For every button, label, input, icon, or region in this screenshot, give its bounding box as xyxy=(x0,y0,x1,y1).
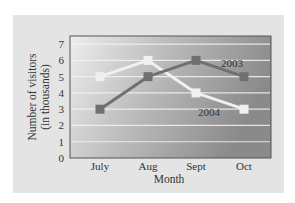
plot-area xyxy=(70,36,271,158)
data-point-2004 xyxy=(240,105,249,114)
data-point-2004 xyxy=(144,56,153,65)
y-tick-label: 4 xyxy=(59,87,65,99)
y-tick-label: 0 xyxy=(59,152,65,164)
data-point-2003 xyxy=(144,72,153,81)
y-tick-label: 1 xyxy=(59,136,65,148)
y-axis-label-line2: (in thousands) xyxy=(39,64,52,130)
x-axis-label: Month xyxy=(154,173,185,185)
data-point-2003 xyxy=(192,56,201,65)
x-tick-label: July xyxy=(91,160,110,172)
x-tick-label: Aug xyxy=(139,160,158,172)
data-point-2003 xyxy=(96,105,105,114)
y-tick-label: 5 xyxy=(59,71,65,83)
line-chart: 01234567 JulyAugSeptOct 2003 2004 Month … xyxy=(0,0,295,203)
series-label-2004: 2004 xyxy=(198,106,221,118)
data-point-2004 xyxy=(192,88,201,97)
y-tick-label: 6 xyxy=(59,54,65,66)
data-point-2003 xyxy=(240,72,249,81)
x-tick-label: Oct xyxy=(236,160,252,172)
y-axis-label-line1: Number of visitors xyxy=(26,53,38,140)
y-axis-ticks: 01234567 xyxy=(59,38,65,164)
y-tick-label: 7 xyxy=(59,38,65,50)
series-label-2003: 2003 xyxy=(221,57,244,69)
y-tick-label: 3 xyxy=(59,103,65,115)
x-axis-ticks: JulyAugSeptOct xyxy=(91,160,252,172)
data-point-2004 xyxy=(96,72,105,81)
x-tick-label: Sept xyxy=(186,160,206,172)
y-tick-label: 2 xyxy=(59,119,65,131)
